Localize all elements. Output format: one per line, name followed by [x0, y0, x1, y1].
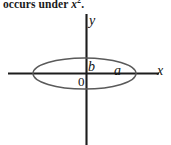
- ellipse-figure: occurs under x2. y x b a 0: [0, 0, 171, 145]
- semi-minor-axis-label: b: [88, 60, 95, 74]
- y-axis-label: y: [89, 14, 95, 28]
- semi-major-axis-label: a: [114, 64, 121, 78]
- origin-label: 0: [78, 75, 85, 88]
- x-axis-label: x: [157, 64, 163, 78]
- coordinate-plot: [0, 0, 171, 145]
